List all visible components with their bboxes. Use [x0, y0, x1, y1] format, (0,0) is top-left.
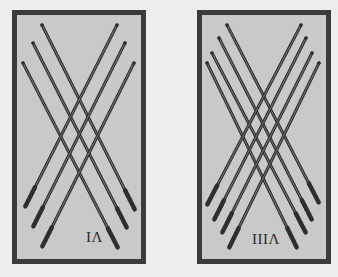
rod-icon [207, 23, 303, 205]
rod-icon [225, 23, 319, 203]
tarot-card-left [12, 10, 146, 264]
rod-icon [229, 61, 321, 248]
card-numeral-left: IΛ [86, 230, 103, 245]
rod-icon [217, 36, 312, 220]
rod-icon [210, 51, 306, 233]
rod-icon [222, 51, 314, 233]
tarot-card-right [197, 10, 331, 264]
rods-illustration-left [12, 10, 146, 264]
rods-illustration-right [197, 10, 331, 264]
rod-icon [205, 61, 297, 248]
rod-icon [25, 23, 119, 207]
rod-icon [214, 36, 308, 220]
card-numeral-right: IIIΛ [252, 232, 280, 247]
